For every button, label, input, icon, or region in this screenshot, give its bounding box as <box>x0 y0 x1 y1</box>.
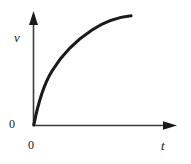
velocity-time-graph: v t 0 0 <box>0 0 191 164</box>
velocity-curve <box>34 16 131 125</box>
y-axis-arrowhead-icon <box>29 11 38 25</box>
x-axis-label: t <box>161 139 165 152</box>
y-axis-origin-label: 0 <box>9 118 15 130</box>
y-axis-label: v <box>14 31 20 44</box>
x-axis-origin-label: 0 <box>28 139 34 151</box>
x-axis-arrowhead-icon <box>163 121 177 129</box>
